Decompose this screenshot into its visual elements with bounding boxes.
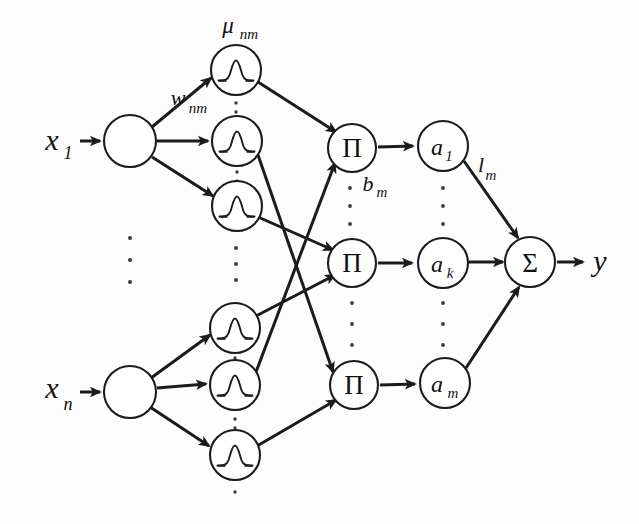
ellipsis-dot [441, 186, 445, 190]
ellipsis-dot [441, 222, 445, 226]
edge-group-gaussian-to-product [256, 82, 336, 446]
ellipsis-dot [128, 280, 132, 284]
neural-network-diagram: Π Π Π a 1 a k a [0, 0, 639, 524]
mu-label-base: μ [221, 13, 234, 38]
ellipsis-dot [350, 343, 354, 347]
edge-group-input-arrows [80, 141, 100, 392]
edge-prod1-to-a1 [378, 146, 413, 147]
edge-prodm-to-am [380, 384, 415, 385]
ellipsis-dot [441, 301, 445, 305]
weight-label-base: w [171, 85, 186, 110]
input-label-x1-sub: 1 [64, 143, 73, 163]
node-circle [210, 430, 260, 480]
node-product-m[interactable]: Π [330, 361, 378, 409]
sum-symbol: Σ [522, 248, 538, 278]
activation-label-sub: k [447, 265, 454, 281]
node-gaussian-4[interactable] [210, 303, 260, 353]
activation-label-base: a [431, 251, 443, 277]
node-input-xn[interactable] [104, 366, 156, 418]
activation-layer: a 1 a k a m [418, 121, 470, 408]
output-weight-label-sub: m [486, 167, 497, 183]
node-activation-ak[interactable]: a k [418, 238, 468, 288]
ellipsis-dot [233, 490, 236, 493]
node-circle [211, 45, 261, 95]
bias-label-sub: m [377, 184, 388, 200]
edge-g1-to-prod1 [258, 82, 336, 132]
edge-g4-to-prodk [256, 275, 335, 316]
ellipsis-dot [348, 186, 352, 190]
node-gaussian-3[interactable] [212, 181, 262, 231]
ellipsis-dot [128, 236, 132, 240]
ellipsis-dot [233, 417, 236, 420]
ellipsis-dot [235, 170, 238, 173]
node-gaussian-1[interactable] [211, 45, 261, 95]
product-symbol: Π [344, 370, 364, 400]
ellipsis-dot [350, 301, 354, 305]
ellipsis-dot [348, 222, 352, 226]
node-activation-am[interactable]: a m [420, 358, 470, 408]
output-label-y: y [590, 244, 607, 277]
node-circle [420, 358, 470, 408]
ellipsis-dot [234, 110, 237, 113]
activation-label-base: a [431, 134, 443, 160]
activation-label-base: a [431, 371, 443, 397]
product-symbol: Π [342, 133, 362, 163]
ellipsis-dot [234, 278, 238, 282]
activation-label-sub: m [448, 385, 459, 401]
edge-am-to-sum [466, 287, 519, 368]
edge-g6-to-prodm [257, 400, 336, 446]
input-label-x1-base: x [44, 123, 59, 156]
edge-input1-to-g3 [152, 157, 213, 196]
ellipsis-dot [234, 246, 238, 250]
node-input-x1[interactable] [104, 115, 156, 167]
node-gaussian-2[interactable] [212, 116, 262, 166]
edge-group-input-to-gaussian [150, 78, 213, 446]
bias-label-base: b [363, 171, 374, 196]
ellipsis-dot [128, 258, 132, 262]
product-symbol: Π [342, 248, 362, 278]
diagram-canvas: Π Π Π a 1 a k a [0, 0, 639, 524]
ellipsis-dot [441, 204, 445, 208]
ellipsis-dot [441, 322, 445, 326]
edge-inputn-to-g4 [151, 335, 210, 378]
ellipsis-dots-group [128, 101, 445, 493]
input-layer [104, 115, 156, 418]
ellipsis-dot [441, 343, 445, 347]
node-circle [212, 181, 262, 231]
output-weight-label-base: l [478, 152, 484, 177]
node-circle [210, 360, 260, 410]
node-circle [210, 303, 260, 353]
edge-inputn-to-g5 [157, 384, 206, 388]
edge-g3-to-prodk [258, 217, 333, 250]
ellipsis-dot [234, 101, 237, 104]
edge-inputn-to-g6 [150, 407, 209, 446]
node-product-k[interactable]: Π [328, 239, 376, 287]
node-gaussian-5[interactable] [210, 360, 260, 410]
edge-group-product-to-activation [378, 146, 415, 385]
product-layer: Π Π Π [328, 124, 378, 409]
input-label-xn-sub: n [64, 394, 73, 414]
input-label-xn-base: x [44, 371, 59, 404]
node-gaussian-6[interactable] [210, 430, 260, 480]
weight-label-sub: nm [189, 100, 208, 116]
ellipsis-dot [350, 322, 354, 326]
node-product-1[interactable]: Π [328, 124, 376, 172]
activation-label-sub: 1 [445, 148, 453, 164]
node-circle [418, 121, 468, 171]
node-sum[interactable]: Σ [505, 237, 555, 287]
node-circle [418, 238, 468, 288]
node-activation-a1[interactable]: a 1 [418, 121, 468, 171]
sum-layer: Σ [505, 237, 555, 287]
ellipsis-dot [234, 262, 238, 266]
ellipsis-dot [348, 204, 352, 208]
mu-label-sub: nm [240, 26, 259, 42]
node-circle [212, 116, 262, 166]
